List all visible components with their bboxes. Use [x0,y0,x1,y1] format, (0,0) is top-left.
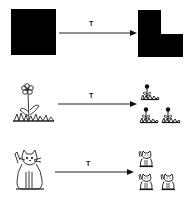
small-cat-icon-bottom-left [139,174,153,190]
small-cat-icon-bottom-right [161,174,175,190]
small-cat-icon-top [139,151,153,167]
result-small-cats [0,0,192,198]
